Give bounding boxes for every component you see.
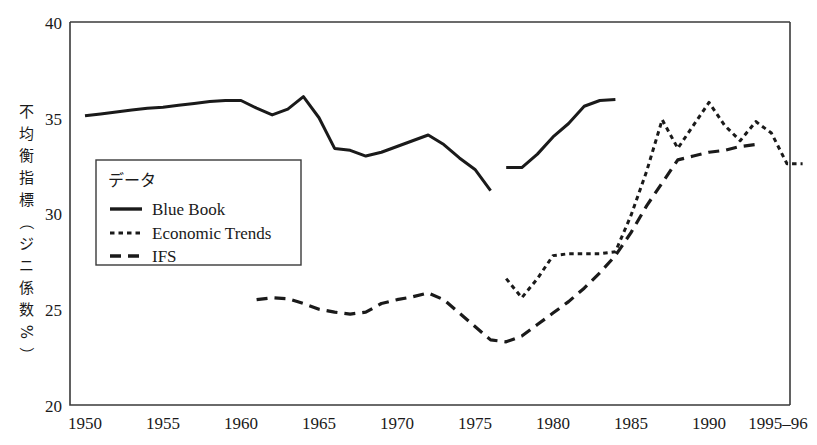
y-axis-label-char-8: 係 — [19, 279, 34, 297]
y-axis-label-char-5: （ — [17, 215, 35, 230]
x-axis-tick-labels: 1950 1955 1960 1965 1970 1975 1980 1985 … — [68, 414, 808, 433]
series-line-ifs — [257, 145, 756, 342]
y-axis-label-char-10: % — [17, 325, 35, 339]
x-tick-1980: 1980 — [536, 414, 570, 433]
legend-title: データ — [108, 171, 156, 190]
y-tick-40: 40 — [45, 14, 62, 33]
line-chart-svg: 40 35 30 25 20 1950 1955 1960 1965 1970 … — [0, 0, 817, 445]
y-tick-30: 30 — [45, 205, 62, 224]
y-axis-label-char-9: 数 — [19, 301, 34, 319]
x-tick-1970: 1970 — [380, 414, 414, 433]
y-tick-25: 25 — [45, 301, 62, 320]
legend-label-economic-trends: Economic Trends — [152, 224, 271, 243]
chart-figure: 40 35 30 25 20 1950 1955 1960 1965 1970 … — [0, 0, 817, 445]
y-axis-label-char-3: 指 — [19, 169, 34, 187]
y-axis-label-char-11: ） — [17, 347, 35, 362]
y-axis-label-char-0: 不 — [19, 103, 34, 121]
y-axis-label-char-2: 衡 — [19, 147, 34, 165]
y-axis-label-char-6: ジ — [19, 235, 34, 253]
x-tick-1960: 1960 — [224, 414, 258, 433]
y-axis-label-char-4: 標 — [19, 191, 34, 209]
legend-label-blue-book: Blue Book — [152, 200, 226, 219]
x-tick-1995-96: 1995–96 — [748, 414, 808, 433]
y-tick-35: 35 — [45, 110, 62, 129]
y-axis-label-char-1: 均 — [19, 125, 34, 143]
y-axis-tick-labels: 40 35 30 25 20 — [45, 14, 62, 416]
x-tick-1975: 1975 — [458, 414, 492, 433]
x-tick-1955: 1955 — [146, 414, 180, 433]
legend-label-ifs: IFS — [152, 247, 177, 266]
series-line-blue-book-seg1 — [506, 100, 615, 168]
x-tick-1985: 1985 — [614, 414, 648, 433]
series-line-economic-trends — [506, 102, 802, 297]
x-tick-1990: 1990 — [692, 414, 726, 433]
chart-legend: データ Blue Book Economic Trends IFS — [96, 160, 301, 266]
x-tick-1950: 1950 — [68, 414, 102, 433]
x-tick-1965: 1965 — [302, 414, 336, 433]
y-axis-label: 不 均 衡 指 標 （ ジ ニ 係 数 % ） — [17, 103, 35, 362]
y-axis-label-char-7: ニ — [19, 257, 34, 275]
y-tick-20: 20 — [45, 397, 62, 416]
